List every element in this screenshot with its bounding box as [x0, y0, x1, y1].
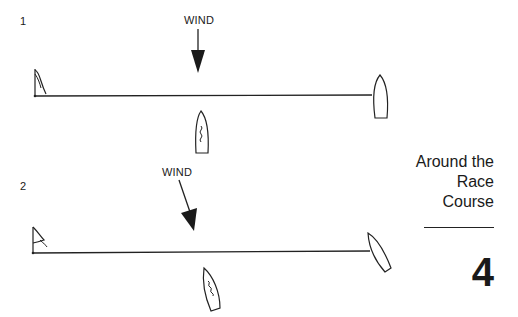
wind-arrow-icon [191, 29, 205, 73]
pin-boat-icon [374, 75, 388, 118]
chapter-number: 4 [472, 252, 494, 292]
boat-icon [196, 111, 209, 153]
divider [424, 227, 494, 228]
flag-icon [32, 227, 47, 254]
start-line [33, 251, 370, 253]
diagram-1 [34, 29, 388, 153]
diagram-2-number: 2 [20, 180, 26, 192]
start-line [35, 95, 372, 96]
flag-icon [34, 69, 46, 97]
section-title-line-2: Race [457, 172, 494, 192]
diagram-1-wind-label: WIND [184, 14, 214, 26]
diagram-1-number: 1 [20, 15, 26, 27]
section-title-line-1: Around the [416, 152, 494, 172]
diagram-2-wind-label: WIND [162, 166, 192, 178]
pin-boat-icon [368, 233, 391, 272]
wind-arrow-icon [179, 180, 197, 231]
diagram-2 [32, 180, 391, 311]
section-title-line-3: Course [442, 192, 494, 212]
boat-icon [203, 268, 220, 311]
